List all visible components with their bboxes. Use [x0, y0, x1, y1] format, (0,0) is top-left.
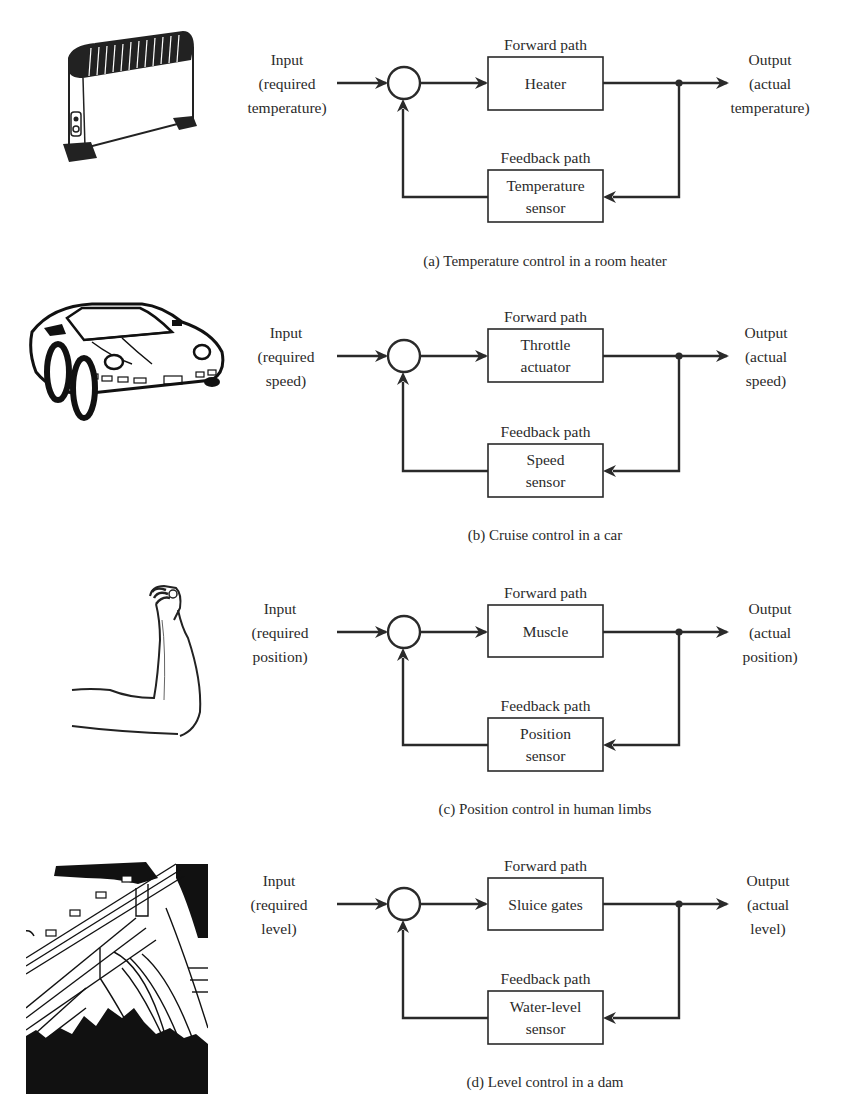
input-label: (required: [258, 348, 315, 366]
panel-a: Input(requiredtemperature)Output(actualt…: [247, 36, 809, 271]
summing-junction-icon: [388, 67, 420, 99]
panel-d: Input(requiredlevel)Output(actuallevel)F…: [251, 857, 791, 1092]
feedback-block-text: Speed: [527, 451, 565, 468]
input-label: temperature): [247, 99, 326, 117]
feedback-line: [613, 83, 679, 197]
summing-junction-icon: [388, 340, 420, 372]
summing-junction-icon: [388, 888, 420, 920]
forward-path-label: Forward path: [504, 36, 587, 53]
input-label: Input: [263, 872, 296, 889]
forward-block-text: Throttle: [521, 336, 571, 353]
input-label: Input: [271, 51, 304, 68]
input-label: speed): [266, 372, 306, 390]
feedback-block-text: Temperature: [506, 177, 584, 194]
output-label: speed): [746, 372, 786, 390]
forward-block-text: Muscle: [523, 623, 569, 640]
input-label: Input: [264, 600, 297, 617]
feedback-block-text: sensor: [526, 747, 566, 764]
panel-caption: (c) Position control in human limbs: [439, 801, 652, 818]
input-label: (required: [259, 75, 316, 93]
input-label: Input: [270, 324, 303, 341]
forward-block-text: actuator: [521, 358, 572, 375]
control-loop-figure: Input(requiredtemperature)Output(actualt…: [0, 0, 853, 1094]
output-label: position): [742, 648, 797, 666]
input-label: position): [252, 648, 307, 666]
output-label: (actual: [749, 624, 791, 642]
output-label: Output: [744, 324, 788, 341]
forward-block-text: Heater: [525, 75, 567, 92]
feedback-line: [613, 904, 679, 1018]
output-label: Output: [746, 872, 790, 889]
feedback-block-text: sensor: [526, 473, 566, 490]
feedback-block-text: sensor: [526, 1020, 566, 1037]
output-label: (actual: [747, 896, 789, 914]
forward-path-label: Forward path: [504, 584, 587, 601]
feedback-path-label: Feedback path: [501, 149, 591, 166]
feedback-path-label: Feedback path: [501, 423, 591, 440]
feedback-path-label: Feedback path: [501, 970, 591, 987]
input-label: (required: [252, 624, 309, 642]
panel-c: Input(requiredposition)Output(actualposi…: [252, 584, 798, 819]
output-label: (actual: [745, 348, 787, 366]
feedback-block-text: sensor: [526, 199, 566, 216]
summing-junction-icon: [388, 616, 420, 648]
feedback-block-text: Position: [520, 725, 571, 742]
panel-caption: (b) Cruise control in a car: [468, 527, 623, 544]
feedback-line: [613, 356, 679, 471]
forward-block-text: Sluice gates: [508, 896, 582, 913]
input-label: level): [261, 920, 296, 938]
feedback-line: [613, 632, 679, 745]
feedback-block-text: Water-level: [510, 998, 582, 1015]
panel-caption: (a) Temperature control in a room heater: [423, 253, 667, 270]
panel-b: Input(requiredspeed)Output(actualspeed)F…: [258, 308, 789, 545]
output-label: (actual: [749, 75, 791, 93]
forward-path-label: Forward path: [504, 857, 587, 874]
output-label: temperature): [730, 99, 809, 117]
output-label: Output: [748, 51, 792, 68]
feedback-path-label: Feedback path: [501, 697, 591, 714]
input-label: (required: [251, 896, 308, 914]
output-label: Output: [748, 600, 792, 617]
output-label: level): [750, 920, 785, 938]
block-diagrams: Input(requiredtemperature)Output(actualt…: [0, 0, 853, 1094]
forward-path-label: Forward path: [504, 308, 587, 325]
panel-caption: (d) Level control in a dam: [466, 1074, 623, 1091]
